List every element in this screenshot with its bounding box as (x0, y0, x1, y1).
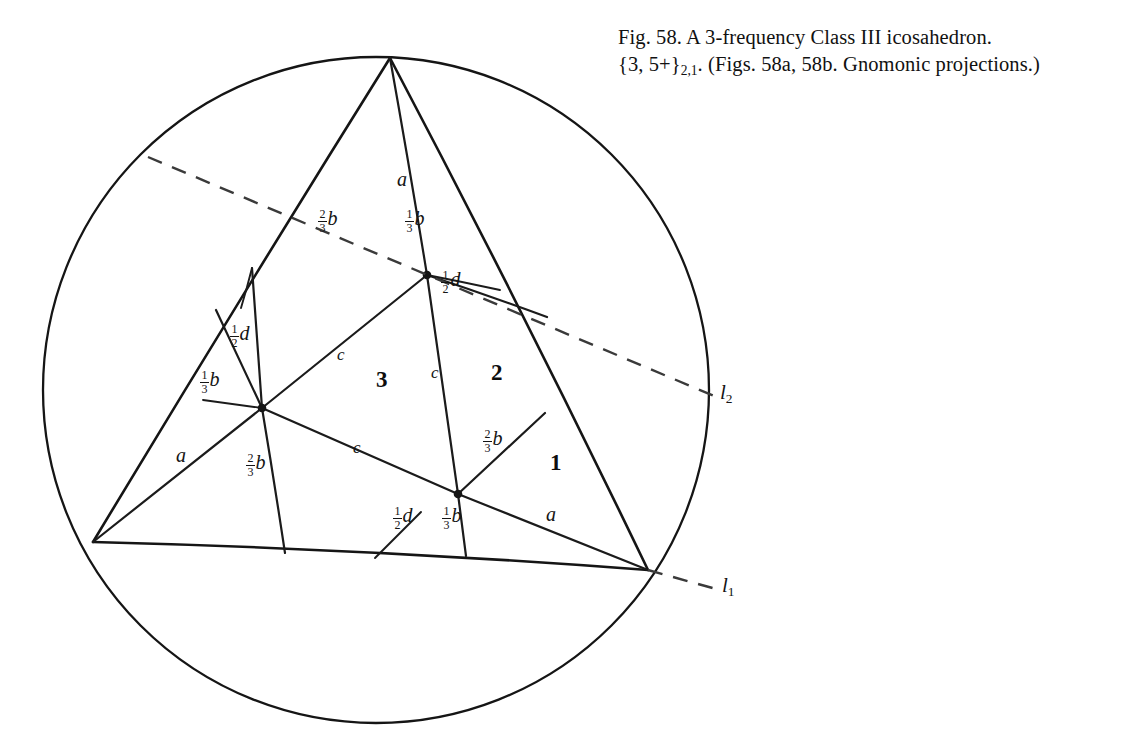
geometric-diagram (0, 0, 1142, 748)
grid-line-left-node-to-upper-node (262, 275, 427, 408)
fraction-denominator: 2 (393, 519, 402, 532)
grid-line-left-edge-to-left-node (252, 268, 262, 408)
fraction: 12 (441, 269, 450, 295)
label-line-l1: l1 (722, 573, 735, 600)
fraction: 13 (405, 208, 414, 234)
figure-caption: Fig. 58. A 3-frequency Class III icosahe… (618, 24, 1130, 79)
tick-left-node-one-third-b (203, 400, 262, 408)
fraction-variable: b (255, 451, 265, 473)
caption-notation-subscript: 2,1 (681, 63, 698, 78)
label-half-d-upper-right: 12d (441, 268, 460, 295)
fraction-denominator: 3 (405, 222, 414, 235)
caption-line-2: {3, 5+}2,1. (Figs. 58a, 58b. Gnomonic pr… (618, 51, 1130, 80)
fraction-variable: b (492, 427, 502, 449)
caption-notation: {3, 5+} (618, 53, 681, 75)
caption-line-2-tail: . (Figs. 58a, 58b. Gnomonic projections.… (698, 53, 1040, 75)
fraction-denominator: 2 (441, 283, 450, 296)
fraction-numerator: 2 (483, 428, 492, 441)
fraction-variable: b (327, 207, 337, 229)
triangle-edge-bottom (93, 542, 648, 570)
fraction-denominator: 3 (442, 519, 451, 532)
fraction-denominator: 3 (200, 383, 209, 396)
label-a-left: a (176, 444, 186, 467)
fraction-numerator: 1 (230, 323, 239, 336)
label-one-third-b-upper-right: 13b (405, 207, 424, 234)
grid-line-left-vertex-to-left-node (93, 408, 262, 542)
label-c-centre: c (431, 363, 439, 383)
fraction-denominator: 3 (483, 442, 492, 455)
node-upper-dot (423, 271, 432, 280)
fraction: 23 (246, 452, 255, 478)
fraction-numerator: 1 (200, 369, 209, 382)
fraction: 12 (393, 505, 402, 531)
fraction: 13 (200, 369, 209, 395)
fraction-numerator: 2 (246, 452, 255, 465)
label-c-upper: c (337, 345, 345, 365)
fraction-numerator: 1 (442, 505, 451, 518)
fraction-variable: d (450, 268, 460, 290)
fraction-numerator: 1 (393, 505, 402, 518)
fraction-variable: b (414, 207, 424, 229)
region-label-2: 2 (491, 360, 503, 386)
label-two-thirds-b-left-lower: 23b (246, 451, 265, 478)
fraction-variable: d (402, 504, 412, 526)
fraction-variable: b (209, 368, 219, 390)
line-name-subscript: 1 (728, 584, 735, 599)
label-half-d-bottom: 12d (393, 504, 412, 531)
fraction: 12 (230, 323, 239, 349)
triangle-edge-left (93, 58, 390, 542)
fraction-numerator: 2 (318, 208, 327, 221)
label-a-right: a (546, 503, 556, 526)
fraction: 23 (318, 208, 327, 234)
label-a-apex: a (397, 168, 407, 191)
figure-root: Fig. 58. A 3-frequency Class III icosahe… (0, 0, 1142, 748)
label-one-third-b-bottom: 13b (442, 504, 461, 531)
label-two-thirds-b-upper-left: 23b (318, 207, 337, 234)
line-name-subscript: 2 (726, 391, 733, 406)
node-lower-right-dot (454, 490, 463, 499)
fraction-variable: b (451, 504, 461, 526)
label-line-l2: l2 (720, 380, 733, 407)
tick-left-edge-half-d (241, 268, 252, 308)
node-left-dot (258, 404, 267, 413)
grid-line-left-node-to-bottom-edge (262, 408, 285, 553)
fraction: 23 (483, 428, 492, 454)
fraction: 13 (442, 505, 451, 531)
region-label-1: 1 (550, 450, 562, 476)
label-one-third-b-left: 13b (200, 368, 219, 395)
label-two-thirds-b-right: 23b (483, 427, 502, 454)
label-half-d-left: 12d (230, 322, 249, 349)
internal-grid (93, 58, 648, 570)
fraction-denominator: 3 (246, 466, 255, 479)
grid-line-upper-node-to-lower-node (427, 275, 458, 494)
fraction-numerator: 1 (441, 269, 450, 282)
fraction-variable: d (239, 322, 249, 344)
triangle-edges (93, 58, 648, 570)
fraction-numerator: 1 (405, 208, 414, 221)
dashed-line-l1 (648, 570, 716, 589)
fraction-denominator: 3 (318, 222, 327, 235)
fraction-denominator: 2 (230, 337, 239, 350)
region-label-3: 3 (376, 367, 388, 393)
label-c-lower: c (353, 438, 361, 458)
caption-line-1: Fig. 58. A 3-frequency Class III icosahe… (618, 24, 1130, 51)
